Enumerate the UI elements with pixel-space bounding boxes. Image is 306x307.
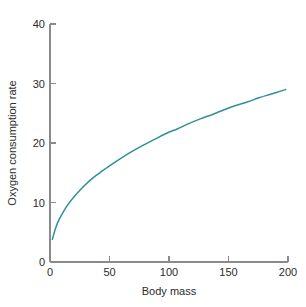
x-tick-label-50: 50	[103, 266, 115, 278]
y-tick-label-0: 0	[39, 256, 45, 268]
oxygen-consumption-chart: 40 30 20 10 0 0 50 100 150 200 Body mass…	[0, 0, 306, 307]
x-tick-label-150: 150	[219, 266, 237, 278]
y-tick-label-20: 20	[33, 137, 45, 149]
y-tick-label-30: 30	[33, 78, 45, 90]
x-tick-label-0: 0	[47, 266, 53, 278]
y-tick-label-40: 40	[33, 18, 45, 30]
x-axis-title: Body mass	[142, 285, 197, 297]
y-tick-label-10: 10	[33, 197, 45, 209]
x-tick-label-100: 100	[160, 266, 178, 278]
x-tick-label-200: 200	[279, 266, 297, 278]
chart-page: 40 30 20 10 0 0 50 100 150 200 Body mass…	[0, 0, 306, 307]
chart-background	[0, 0, 306, 307]
y-axis-title: Oxygen consumption rate	[6, 80, 18, 205]
